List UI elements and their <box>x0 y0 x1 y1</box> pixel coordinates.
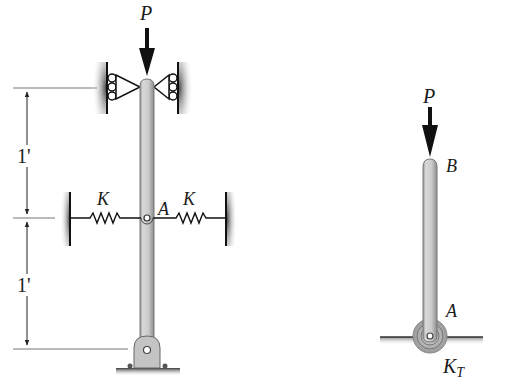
torsion-spring-label: KT <box>443 356 464 380</box>
point-label-b: B <box>446 157 457 175</box>
spring-label-right: K <box>183 190 195 208</box>
joint-label-a-left: A <box>158 200 169 218</box>
load-arrow-right <box>422 107 438 157</box>
load-arrow-left <box>139 28 155 76</box>
top-roller-support-left <box>92 62 140 114</box>
left-system <box>13 28 237 376</box>
diagram-svg <box>0 0 505 389</box>
load-label-left: P <box>140 3 152 23</box>
spring-label-left: K <box>97 190 109 208</box>
figure-canvas: P K K A 1' 1' P B A KT <box>0 0 505 389</box>
load-label-right: P <box>423 86 435 106</box>
dimension-label-upper: 1' <box>17 145 31 167</box>
right-system <box>380 107 483 353</box>
torsion-spring-symbol: K <box>443 355 456 377</box>
top-roller-support-right <box>154 62 193 114</box>
dimension-label-lower: 1' <box>17 274 31 296</box>
point-label-a-right: A <box>446 302 457 320</box>
column-rod-right <box>423 159 437 342</box>
base-pin-support <box>116 336 180 376</box>
torsion-spring-subscript: T <box>456 365 464 380</box>
